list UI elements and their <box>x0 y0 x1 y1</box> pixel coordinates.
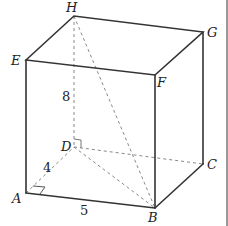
label-G: G <box>207 25 217 40</box>
edge-AB <box>26 193 155 208</box>
label-D: D <box>60 139 72 154</box>
label-H: H <box>65 0 78 15</box>
label-F: F <box>156 75 167 90</box>
face-top <box>26 16 203 75</box>
diagonal-HB <box>74 16 155 208</box>
dimension-height: 8 <box>62 89 70 104</box>
dimension-width: 5 <box>80 203 88 218</box>
label-B: B <box>147 210 158 225</box>
right-angle-A-icon <box>33 186 45 194</box>
label-A: A <box>11 191 21 206</box>
edge-BC <box>155 164 203 208</box>
diagonal-DB <box>74 147 155 208</box>
dimension-depth: 4 <box>43 160 51 175</box>
prism-diagram: H G E F D C A B 8 4 5 <box>0 0 228 226</box>
hidden-edges <box>26 16 203 208</box>
label-E: E <box>10 53 21 68</box>
label-C: C <box>207 157 217 172</box>
